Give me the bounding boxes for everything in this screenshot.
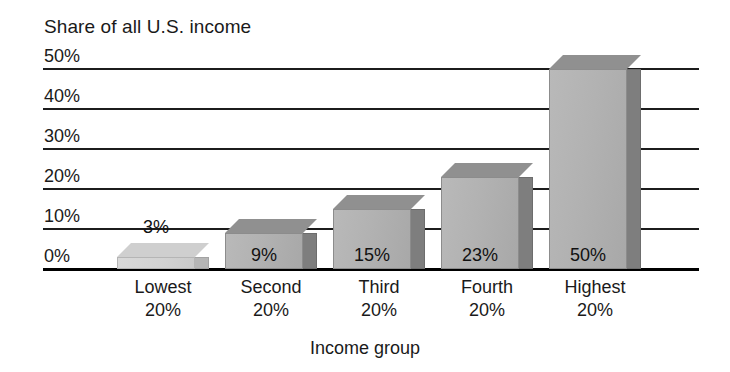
x-tick-label-3: Third 20% — [317, 276, 441, 322]
bar-top-face — [225, 219, 317, 233]
y-tick-label-0: 0% — [44, 247, 70, 268]
x-tick-label-2: Second 20% — [209, 276, 333, 322]
bar-top-face — [117, 243, 209, 257]
bar-side-face — [194, 257, 209, 269]
bar-body: 15% — [333, 195, 425, 269]
x-axis-title: Income group — [0, 338, 730, 359]
bar-5: 50% — [549, 69, 641, 269]
plot-area: 0%10%20%30%40%50% 3%9%15%23%50% — [43, 69, 699, 269]
bar-body: 50% — [549, 55, 641, 269]
y-tick-label-50: 50% — [44, 47, 80, 68]
bar-side-face — [626, 69, 641, 269]
bar-body: 23% — [441, 163, 533, 269]
bar-front-face — [225, 233, 303, 269]
bar-2: 9% — [225, 69, 317, 269]
bar-front-face — [333, 209, 411, 269]
bar-side-face — [410, 209, 425, 269]
bar-top-face — [441, 163, 533, 177]
bar-front-face — [549, 69, 627, 269]
y-tick-label-40: 40% — [44, 87, 80, 108]
bar-body: 9% — [225, 219, 317, 269]
y-tick-label-10: 10% — [44, 207, 80, 228]
x-tick-label-4: Fourth 20% — [425, 276, 549, 322]
bar-value-label: 3% — [117, 217, 195, 237]
x-tick-label-5: Highest 20% — [533, 276, 657, 322]
bar-side-face — [518, 177, 533, 269]
bar-top-face — [549, 55, 641, 69]
bar-front-face — [117, 257, 195, 269]
income-share-bar-chart: Share of all U.S. income 0%10%20%30%40%5… — [0, 0, 730, 372]
bar-side-face — [302, 233, 317, 269]
y-tick-label-20: 20% — [44, 167, 80, 188]
bar-4: 23% — [441, 69, 533, 269]
bar-3: 15% — [333, 69, 425, 269]
bar-1: 3% — [117, 69, 209, 269]
bar-front-face — [441, 177, 519, 269]
bar-body: 3% — [117, 243, 209, 269]
y-axis-title: Share of all U.S. income — [44, 16, 251, 38]
x-tick-label-1: Lowest 20% — [101, 276, 225, 322]
y-tick-label-30: 30% — [44, 127, 80, 148]
bar-top-face — [333, 195, 425, 209]
